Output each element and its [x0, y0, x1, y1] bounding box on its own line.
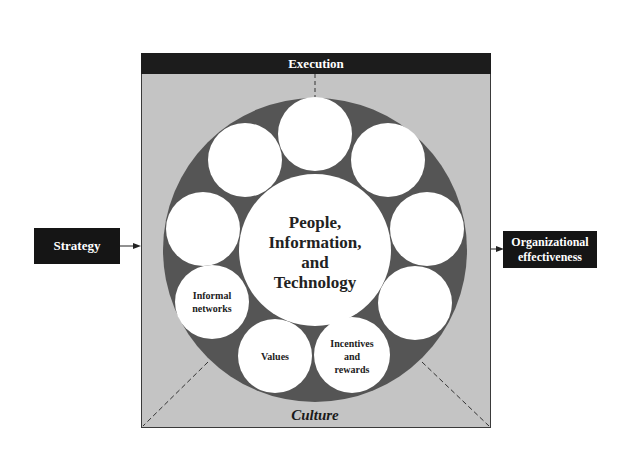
center-label-line1: People,: [240, 213, 390, 233]
orbit-circle-top: [278, 97, 352, 171]
center-label: People, Information, and Technology: [240, 213, 390, 293]
strategy-box: Strategy: [34, 228, 120, 264]
incentives-line1: Incentives: [314, 337, 390, 350]
strategy-label: Strategy: [54, 238, 101, 253]
effectiveness-label-line1: Organizational: [503, 235, 597, 250]
values-line1: Values: [238, 350, 312, 363]
orbit-circle-left: [166, 192, 240, 266]
orbit-circle-top-left: [208, 123, 282, 197]
incentives-line2: and: [314, 350, 390, 363]
orbit-circle-right: [390, 192, 464, 266]
incentives-line3: rewards: [314, 363, 390, 376]
incentives-rewards-label: Incentives and rewards: [314, 337, 390, 376]
informal-networks-label: Informal networks: [174, 289, 250, 315]
effectiveness-label-line2: effectiveness: [503, 250, 597, 265]
center-label-line4: Technology: [240, 273, 390, 293]
orbit-circle-top-right: [351, 123, 425, 197]
informal-networks-line2: networks: [174, 302, 250, 315]
organizational-effectiveness-box: Organizational effectiveness: [503, 231, 597, 268]
culture-dashed-line-right: [422, 362, 489, 426]
informal-networks-line1: Informal: [174, 289, 250, 302]
center-label-line3: and: [240, 253, 390, 273]
values-label: Values: [238, 350, 312, 363]
strategy-arrow-head-icon: [133, 243, 141, 249]
culture-label: Culture: [265, 407, 365, 424]
culture-dashed-line-left: [143, 362, 208, 426]
center-label-line2: Information,: [240, 233, 390, 253]
